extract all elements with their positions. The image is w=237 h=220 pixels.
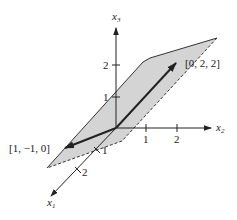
x2-tick-label-1: 1 — [143, 133, 149, 145]
vector-label-1-neg1-0: [1, −1, 0] — [9, 142, 50, 154]
x1-tick-label-2: 2 — [82, 166, 88, 178]
x2-tick-label-2: 2 — [174, 133, 180, 145]
x1-axis-label: x1 — [46, 196, 55, 210]
diagram-canvas: x3 x2 x1 2 1 1 2 1 2 [0, 2, 2] [1, −1, 0… — [0, 0, 237, 220]
x2-axis-label: x2 — [215, 121, 225, 135]
vector-label-0-2-2: [0, 2, 2] — [185, 57, 220, 69]
x3-axis-label: x3 — [111, 10, 121, 24]
x3-tick-label-1: 1 — [103, 91, 109, 103]
x1-tick-label-1: 1 — [102, 144, 108, 156]
x3-tick-label-2: 2 — [103, 59, 109, 71]
